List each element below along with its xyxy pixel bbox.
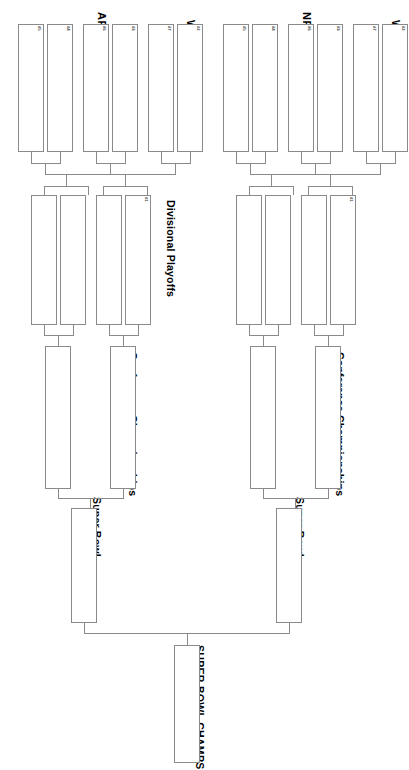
connector [123, 335, 124, 346]
connector [328, 335, 329, 346]
connector [250, 163, 251, 174]
connector [44, 325, 45, 335]
superbowl-slot-afc[interactable] [71, 508, 97, 623]
connector [366, 163, 396, 164]
connector-bus [45, 174, 176, 175]
wildcard-slot-afc-3a[interactable] [148, 24, 174, 152]
wildcard-slot-afc-1a[interactable] [18, 24, 44, 152]
connector [301, 152, 302, 163]
connector [103, 186, 147, 187]
connector [295, 498, 296, 508]
connector [289, 623, 290, 633]
connector [308, 186, 352, 187]
divisional-slot-nfc-2b[interactable] [330, 195, 356, 325]
connector [343, 325, 344, 335]
connector [352, 186, 353, 195]
divisional-slot-nfc-1b[interactable] [265, 195, 291, 325]
wildcard-slot-nfc-2b[interactable] [317, 24, 343, 152]
connector [278, 325, 279, 335]
connector [58, 489, 59, 498]
connector [58, 498, 124, 499]
wildcard-slot-nfc-3b[interactable] [382, 24, 408, 152]
connector [147, 186, 148, 195]
connector [109, 325, 110, 335]
seed-label-nfc-5: #5 [242, 26, 246, 31]
connector [125, 152, 126, 163]
seed-label-nfc-1: #1 [349, 197, 353, 202]
conference-slot-nfc-b[interactable] [315, 346, 341, 489]
wildcard-slot-nfc-1a[interactable] [223, 24, 249, 152]
divisional-slot-afc-1a[interactable] [31, 195, 57, 325]
connector [110, 163, 111, 174]
connector [123, 489, 124, 498]
round-label-divisional-afc: Divisional Playoffs [166, 200, 177, 297]
connector-final [187, 633, 188, 645]
wildcard-slot-afc-2a[interactable] [83, 24, 109, 152]
connector [31, 163, 61, 164]
connector [45, 163, 46, 174]
connector [301, 163, 331, 164]
connector [395, 152, 396, 163]
connector [88, 186, 89, 195]
champion-slot[interactable] [174, 645, 200, 763]
connector [125, 174, 126, 186]
connector [175, 163, 176, 174]
wildcard-slot-nfc-1b[interactable] [252, 24, 278, 152]
connector [44, 186, 45, 195]
connector [90, 498, 91, 508]
conference-slot-afc-a[interactable] [45, 346, 71, 489]
divisional-slot-nfc-1a[interactable] [236, 195, 262, 325]
wildcard-slot-nfc-2a[interactable] [288, 24, 314, 152]
connector [73, 325, 74, 335]
conference-slot-nfc-a[interactable] [250, 346, 276, 489]
wildcard-slot-afc-2b[interactable] [112, 24, 138, 152]
seed-label-afc-1: #1 [144, 197, 148, 202]
connector [330, 174, 331, 186]
connector [249, 186, 250, 195]
seed-label-nfc-2: #2 [401, 26, 405, 31]
seed-label-afc-7: #7 [167, 26, 171, 31]
connector [66, 174, 67, 186]
seed-label-afc-2: #2 [196, 26, 200, 31]
connector [314, 335, 344, 336]
connector [263, 335, 264, 346]
connector [138, 325, 139, 335]
wildcard-slot-afc-1b[interactable] [47, 24, 73, 152]
connector [263, 498, 329, 499]
conference-slot-afc-b[interactable] [110, 346, 136, 489]
wildcard-slot-afc-3b[interactable] [177, 24, 203, 152]
connector [366, 152, 367, 163]
divisional-slot-afc-2a[interactable] [96, 195, 122, 325]
seed-label-nfc-6: #6 [307, 26, 311, 31]
connector [96, 163, 126, 164]
connector [103, 186, 104, 195]
connector [328, 489, 329, 498]
connector [271, 174, 272, 186]
connector [44, 335, 74, 336]
seed-label-afc-3: #3 [131, 26, 135, 31]
wildcard-slot-nfc-3a[interactable] [353, 24, 379, 152]
divisional-slot-nfc-2a[interactable] [301, 195, 327, 325]
connector-bus [250, 174, 381, 175]
connector [293, 186, 294, 195]
seed-label-afc-5: #5 [37, 26, 41, 31]
divisional-slot-afc-2b[interactable] [125, 195, 151, 325]
superbowl-slot-nfc[interactable] [276, 508, 302, 623]
connector [249, 325, 250, 335]
seed-label-nfc-7: #7 [372, 26, 376, 31]
connector [315, 163, 316, 174]
connector [161, 152, 162, 163]
seed-label-afc-6: #6 [102, 26, 106, 31]
connector [96, 152, 97, 163]
divisional-slot-afc-1b[interactable] [60, 195, 86, 325]
connector [314, 325, 315, 335]
connector [308, 186, 309, 195]
seed-label-nfc-3: #3 [336, 26, 340, 31]
connector [263, 489, 264, 498]
connector [31, 152, 32, 163]
connector [330, 152, 331, 163]
connector [249, 335, 279, 336]
connector [109, 335, 139, 336]
connector [380, 163, 381, 174]
connector [249, 186, 293, 187]
